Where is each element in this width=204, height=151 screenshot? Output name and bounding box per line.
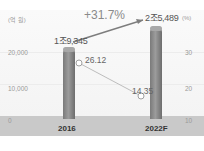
growth-annotation: +31.7%: [84, 8, 125, 22]
market-chart: (억 원) (%) 20,000 10,000 0 30 20 10 +31.7…: [0, 0, 204, 151]
line-value-2022f: 14.35: [132, 86, 153, 96]
x-label-2022f: 2022F: [145, 124, 168, 133]
bar-value-2016: 1조9,345: [54, 34, 87, 47]
bar-value-2022f: 2조5,489: [145, 11, 178, 24]
line-value-2016: 26.12: [85, 55, 106, 65]
x-label-2016: 2016: [58, 124, 76, 133]
